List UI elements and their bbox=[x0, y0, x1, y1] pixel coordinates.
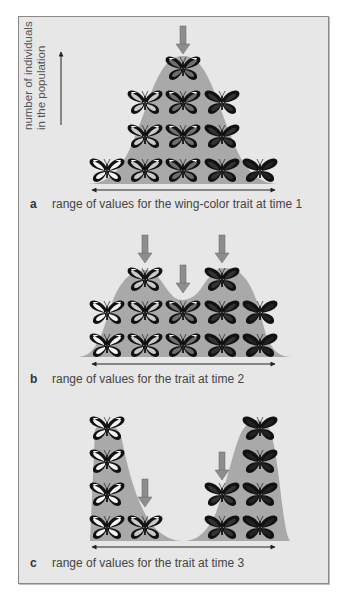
caption-b: brange of values for the trait at time 2 bbox=[30, 372, 244, 386]
selection-arrow bbox=[138, 235, 152, 263]
selection-arrow bbox=[176, 26, 190, 54]
caption-text-c: range of values for the trait at time 3 bbox=[52, 556, 244, 570]
panel-letter-c: c bbox=[30, 556, 52, 570]
y-axis-label-line-2: in the population bbox=[35, 21, 48, 130]
selection-arrow bbox=[176, 265, 190, 293]
caption-text-a: range of values for the wing-color trait… bbox=[52, 197, 302, 211]
caption-text-b: range of values for the trait at time 2 bbox=[52, 372, 244, 386]
y-axis-label-line-1: number of individuals bbox=[22, 21, 35, 130]
selection-arrow bbox=[215, 452, 229, 480]
panel-letter-a: a bbox=[30, 197, 52, 211]
selection-arrow bbox=[215, 235, 229, 263]
selection-arrow bbox=[138, 479, 152, 507]
y-axis-label: number of individuals in the population bbox=[22, 21, 48, 130]
caption-a: arange of values for the wing-color trai… bbox=[30, 197, 302, 211]
panel-letter-b: b bbox=[30, 372, 52, 386]
figure-canvas bbox=[0, 0, 344, 598]
caption-c: crange of values for the trait at time 3 bbox=[30, 556, 244, 570]
